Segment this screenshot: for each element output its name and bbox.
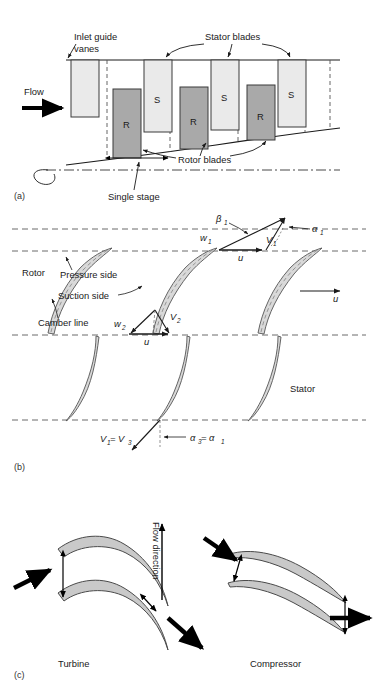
stator-blade-profile-1 [66, 336, 99, 421]
compressor-inlet-gap-dimension [234, 560, 240, 581]
rotor-blade-1-label: R [123, 119, 130, 130]
label-stator: Stator [290, 383, 315, 394]
panel-b: β 1 w 1 V 1 α 1 u u w 2 V [12, 213, 366, 472]
leader-suction-side [118, 286, 142, 295]
figure-turbomachinery-stage: Inlet guide vanes Stator blades R R R S … [0, 0, 376, 682]
label-v2: V [170, 311, 177, 322]
label-u-exit: u [144, 336, 150, 347]
label-flow-direction: Flow direction [151, 522, 162, 580]
label-w2-sub: 2 [121, 324, 126, 331]
label-w2: w [114, 318, 122, 329]
stator-exit-velocity: V 1 = V 3 α 3 = α 1 [100, 420, 225, 450]
leader-stator-2 [228, 44, 232, 57]
label-w1-sub: 1 [208, 238, 212, 245]
label-v1-sub: 1 [273, 240, 277, 247]
label-v1-eq-v3-sub3: 3 [128, 439, 132, 446]
label-turbine: Turbine [58, 658, 89, 669]
leader-stator-3 [262, 44, 290, 57]
stator-blade-3-label: S [288, 89, 294, 100]
velocity-triangle-exit: w 2 V 2 u [114, 310, 181, 347]
panel-a: Inlet guide vanes Stator blades R R R S … [14, 31, 340, 202]
rotor-blade-2-camber-line [156, 249, 215, 332]
label-rotor: Rotor [22, 267, 45, 278]
rotor-blade-2-label: R [190, 116, 197, 127]
label-single-stage: Single stage [108, 191, 160, 202]
label-v1: V [266, 234, 273, 245]
label-suction-side: Suction side [58, 290, 109, 301]
stator-blade-2-body [157, 336, 190, 421]
panel-c: Turbine Flow direction Compressor (c) [14, 522, 370, 680]
label-v1-eq-v3-mid: = V [110, 433, 125, 444]
turbine-inlet-flow-arrow [14, 570, 50, 588]
label-stator-blades: Stator blades [205, 31, 261, 42]
turbine-cascade: Turbine [14, 536, 202, 669]
label-inlet-guide-vanes-line2: vanes [74, 43, 99, 54]
vector-w2 [131, 310, 155, 333]
stator-blade-profile-3 [248, 336, 281, 421]
label-u-blade3: u [333, 293, 339, 304]
label-w1: w [200, 232, 208, 243]
stator-blade-1-body [66, 336, 99, 421]
stator-cascade-row [66, 336, 281, 421]
rotation-symbol-icon [34, 170, 55, 185]
compressor-inlet-flow-arrow [204, 538, 236, 560]
leader-beta1 [229, 223, 248, 234]
rotor-blade-3-label: R [257, 111, 264, 122]
label-beta1: β [215, 213, 222, 224]
rotor-blade-2-body [153, 248, 217, 334]
label-alpha3: α [190, 432, 196, 443]
label-v2-sub: 2 [176, 317, 181, 324]
stator-blade-2-label: S [221, 92, 227, 103]
label-v1-eq-v3: V [100, 433, 107, 444]
inlet-guide-vane [71, 60, 99, 117]
label-beta1-sub: 1 [224, 219, 228, 226]
vector-v3 [132, 420, 160, 450]
label-inlet-guide-vanes-line1: Inlet guide [74, 31, 117, 42]
label-pressure-side: Pressure side [60, 269, 117, 280]
rotor-blade-profile-2 [153, 248, 217, 334]
panel-c-id: (c) [14, 670, 25, 680]
label-compressor: Compressor [250, 658, 301, 669]
panel-b-id: (b) [14, 462, 25, 472]
label-rotor-blades: Rotor blades [178, 154, 231, 165]
panel-a-id: (a) [14, 191, 25, 201]
turbine-exit-flow-arrow [168, 618, 202, 648]
label-alpha3-sub1: 1 [221, 438, 225, 445]
stator-blade-3-body [248, 336, 281, 421]
label-alpha1: α [312, 223, 318, 234]
leader-stator-1 [166, 44, 204, 57]
leader-rotor-3 [230, 141, 266, 156]
stator-blade-1-label: S [154, 94, 160, 105]
label-alpha3-mid: = α [201, 432, 215, 443]
leader-single-stage [134, 162, 139, 190]
compressor-cascade: Compressor [204, 538, 370, 669]
label-alpha1-sub: 1 [320, 229, 324, 236]
stator-blade-profile-2 [157, 336, 190, 421]
label-camber-line: Camber line [38, 317, 89, 328]
turbine-blade-lower [58, 580, 168, 650]
label-flow: Flow [24, 86, 44, 97]
label-u-inlet: u [238, 252, 244, 263]
